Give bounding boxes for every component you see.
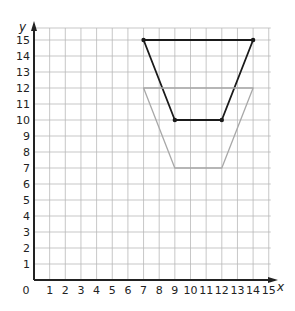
x-tick-label: 14: [246, 284, 260, 297]
y-tick-label: 9: [23, 130, 30, 143]
x-tick-label: 1: [46, 284, 53, 297]
x-tick-label: 12: [215, 284, 229, 297]
x-tick-label: 9: [171, 284, 178, 297]
y-tick-label: 1: [23, 258, 30, 271]
translated-trapezoid: [144, 88, 254, 168]
y-tick-label: 5: [23, 194, 30, 207]
vertex-point: [173, 118, 177, 122]
x-axis-label: x: [276, 280, 285, 294]
x-tick-label: 8: [156, 284, 163, 297]
x-tick-label: 11: [199, 284, 213, 297]
x-tick-label: 5: [109, 284, 116, 297]
y-tick-label: 3: [23, 226, 30, 239]
coordinate-plane: 0123456789101112131415123456789101112131…: [0, 0, 295, 311]
vertex-point: [141, 38, 145, 42]
x-tick-label: 10: [184, 284, 198, 297]
vertex-point: [220, 118, 224, 122]
y-tick-label: 11: [16, 98, 30, 111]
x-tick-label: 2: [62, 284, 69, 297]
y-tick-label: 7: [23, 162, 30, 175]
x-tick-label: 3: [77, 284, 84, 297]
trapezoids: [141, 38, 255, 168]
y-tick-label: 8: [23, 146, 30, 159]
x-tick-label: 6: [124, 284, 131, 297]
y-tick-label: 6: [23, 178, 30, 191]
y-tick-label: 13: [16, 66, 30, 79]
y-tick-label: 14: [16, 50, 30, 63]
y-tick-label: 2: [23, 242, 30, 255]
x-tick-label: 15: [262, 284, 276, 297]
x-tick-label: 13: [230, 284, 244, 297]
tick-labels: 0123456789101112131415123456789101112131…: [16, 34, 276, 297]
y-tick-label: 10: [16, 114, 30, 127]
y-tick-label: 4: [23, 210, 30, 223]
y-axis-arrow-icon: [31, 21, 37, 31]
y-tick-label: 15: [16, 34, 30, 47]
vertex-point: [251, 38, 255, 42]
x-tick-label: 4: [93, 284, 100, 297]
x-tick-label: 7: [140, 284, 147, 297]
original-trapezoid: [144, 40, 254, 120]
x-tick-label: 0: [23, 284, 30, 297]
grid-lines: [34, 28, 271, 280]
y-tick-label: 12: [16, 82, 30, 95]
y-axis-label: y: [18, 20, 27, 34]
